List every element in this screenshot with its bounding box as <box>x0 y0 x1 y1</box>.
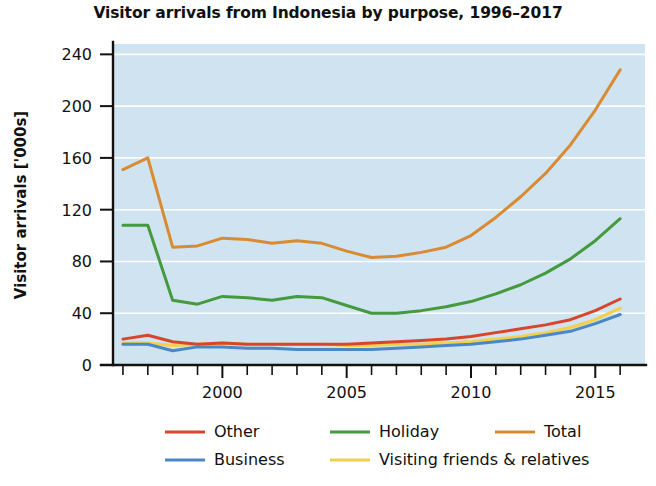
y-tick-label: 240 <box>61 45 92 64</box>
legend-label: Business <box>214 450 285 469</box>
x-tick-label: 2000 <box>202 383 243 402</box>
legend-label: Other <box>214 422 260 441</box>
chart-title: Visitor arrivals from Indonesia by purpo… <box>93 4 562 22</box>
y-tick-label: 80 <box>72 252 92 271</box>
y-tick-label: 0 <box>82 356 92 375</box>
plot-area-background <box>113 44 645 365</box>
legend-label: Holiday <box>379 422 439 441</box>
y-tick-label: 120 <box>61 201 92 220</box>
x-tick-label: 2015 <box>575 383 616 402</box>
y-axis-label: Visitor arrivals ['000s] <box>12 111 30 299</box>
legend-label: Total <box>543 422 581 441</box>
y-tick-label: 200 <box>61 97 92 116</box>
y-tick-label: 40 <box>72 304 92 323</box>
x-tick-label: 2010 <box>451 383 492 402</box>
x-tick-label: 2005 <box>326 383 367 402</box>
y-tick-label: 160 <box>61 149 92 168</box>
legend-label: Visiting friends & relatives <box>379 450 589 469</box>
chart-figure: Visitor arrivals from Indonesia by purpo… <box>0 0 656 486</box>
